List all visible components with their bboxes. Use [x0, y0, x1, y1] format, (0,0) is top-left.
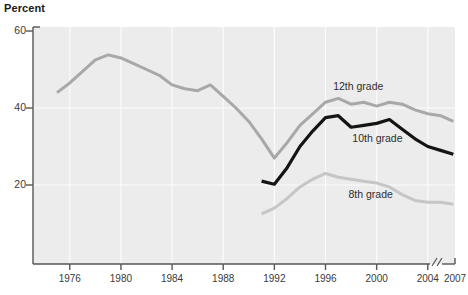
- x-axis-tick-label: 1976: [50, 273, 90, 284]
- line-chart-plot: [0, 0, 468, 295]
- y-axis-tick-label: 40: [0, 101, 26, 113]
- x-axis-tick-label: 2000: [357, 273, 397, 284]
- x-axis-tick-label: 2007: [435, 273, 468, 284]
- x-axis-tick-label: 1996: [306, 273, 346, 284]
- x-axis-tick-label: 1992: [254, 273, 294, 284]
- x-axis-tick-label: 1980: [101, 273, 141, 284]
- y-axis-tick-label: 20: [0, 178, 26, 190]
- series-label-8th-grade: 8th grade: [349, 188, 393, 200]
- series-label-10th-grade: 10th grade: [352, 132, 402, 144]
- chart-container: Percent 60402019761980198419881992199620…: [0, 0, 468, 295]
- y-axis-tick-label: 60: [0, 24, 26, 36]
- x-axis-tick-label: 1984: [152, 273, 192, 284]
- x-axis-tick-label: 1988: [203, 273, 243, 284]
- series-label-12th-grade: 12th grade: [333, 80, 383, 92]
